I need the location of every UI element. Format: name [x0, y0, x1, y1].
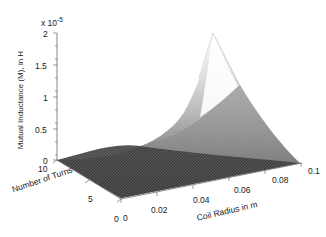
- z-axis-title: Mutual Inductance (M), in H: [17, 35, 25, 165]
- turns-tick-5: 5: [88, 195, 93, 204]
- z-axis-exponent-label: x 10-5: [41, 17, 63, 27]
- z-exponent-prefix: x 10: [41, 18, 57, 28]
- surface-mesh: [57, 33, 300, 198]
- z-tick-1p5: 1.5: [35, 62, 47, 71]
- z-exponent-superscript: -5: [57, 16, 63, 23]
- z-tick-1: 1: [43, 94, 48, 103]
- plot-canvas: [0, 0, 326, 237]
- radius-tick-0p06: 0.06: [234, 186, 251, 195]
- radius-tick-0: 0: [123, 214, 128, 223]
- z-tick-0p5: 0.5: [35, 126, 47, 135]
- radius-tick-0p04: 0.04: [193, 196, 210, 205]
- surface-plot-figure: Mutual Inductance (M), in H x 10-5 2 1.5…: [0, 0, 326, 237]
- z-axis-ticks: [53, 33, 57, 160]
- radius-tick-0p08: 0.08: [272, 176, 289, 185]
- turns-tick-0: 0: [114, 215, 119, 224]
- radius-tick-0p02: 0.02: [151, 206, 168, 215]
- radius-tick-0p1: 0.1: [308, 167, 320, 176]
- z-tick-2: 2: [43, 30, 48, 39]
